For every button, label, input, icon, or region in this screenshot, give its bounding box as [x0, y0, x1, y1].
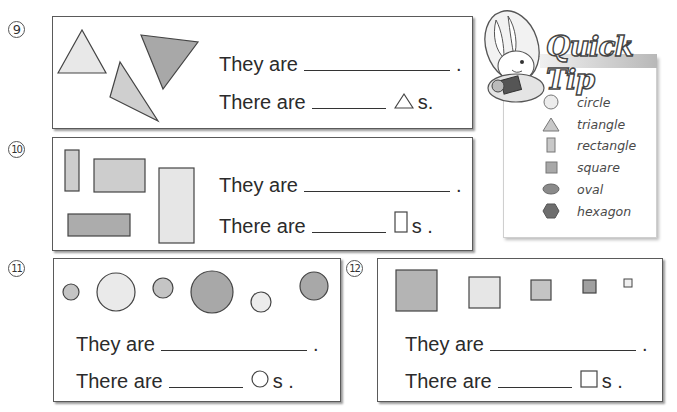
question-9-panel: They are . There are s.	[52, 16, 473, 129]
rectangle-shape	[94, 159, 145, 192]
they-are-line: They are .	[219, 174, 462, 197]
circle-icon	[251, 370, 269, 388]
tip-label: circle	[577, 95, 611, 110]
tip-item-hexagon: hexagon	[540, 201, 631, 221]
question-number-9: 9	[8, 21, 25, 38]
answer-blank-count[interactable]	[169, 387, 243, 388]
tip-item-square: square	[540, 157, 620, 177]
tip-item-circle: circle	[540, 92, 611, 112]
question-number-text: 10	[11, 144, 22, 155]
question-number-text: 12	[349, 263, 360, 274]
answer-blank-shape-name[interactable]	[304, 191, 450, 192]
triangle-icon	[542, 116, 560, 132]
circle-shape	[97, 273, 135, 311]
answer-blank-shape-name[interactable]	[161, 350, 307, 351]
there-are-line: There are s.	[219, 91, 433, 114]
period: .	[456, 53, 462, 76]
question-number-10: 10	[8, 141, 25, 158]
square-shape	[624, 279, 632, 287]
hexagon-icon	[542, 203, 560, 219]
triangle-shape	[141, 35, 198, 89]
question-number-text: 11	[11, 263, 22, 274]
square-shape	[469, 277, 500, 308]
rectangle-shape	[159, 168, 194, 243]
tip-item-triangle: triangle	[540, 114, 625, 134]
plural-suffix: s.	[418, 91, 434, 114]
oval-icon	[542, 183, 560, 195]
circle-shape	[251, 292, 271, 312]
they-are-line: They are .	[219, 53, 462, 76]
plural-suffix: s .	[412, 215, 433, 238]
triangle-shape	[110, 62, 158, 121]
rectangle-icon	[394, 211, 408, 233]
triangle-shape	[58, 30, 106, 73]
question-number-text: 9	[13, 22, 20, 37]
circle-shape	[191, 271, 233, 313]
circle-shape	[153, 278, 173, 298]
circle-icon	[543, 94, 559, 110]
they-are-label: They are	[219, 174, 298, 197]
plural-suffix: s .	[273, 370, 294, 393]
question-12-panel: They are . There are s .	[377, 258, 663, 402]
there-are-line: There are s .	[219, 211, 433, 238]
rectangle-icon	[546, 137, 556, 153]
period: .	[456, 174, 462, 197]
tip-label: rectangle	[577, 138, 636, 153]
there-are-line: There are s .	[76, 370, 294, 393]
there-are-label: There are	[219, 215, 306, 238]
they-are-label: They are	[76, 333, 155, 356]
tip-label: triangle	[577, 117, 625, 132]
period: .	[642, 333, 648, 356]
period: .	[313, 333, 319, 356]
square-shape	[396, 270, 437, 311]
answer-blank-shape-name[interactable]	[490, 350, 636, 351]
there-are-label: There are	[405, 370, 492, 393]
tip-label: oval	[577, 182, 603, 197]
rectangle-shape	[65, 150, 79, 191]
tip-label: hexagon	[577, 204, 631, 219]
rectangle-shape	[68, 214, 130, 236]
they-are-label: They are	[405, 333, 484, 356]
they-are-label: They are	[219, 53, 298, 76]
circle-shape	[300, 272, 328, 300]
question-10-panel: They are . There are s .	[52, 137, 473, 251]
answer-blank-shape-name[interactable]	[304, 70, 450, 71]
square-icon	[545, 161, 558, 174]
square-shape	[583, 280, 596, 293]
tip-item-rectangle: rectangle	[540, 135, 636, 155]
answer-blank-count[interactable]	[498, 387, 572, 388]
question-number-11: 11	[8, 260, 25, 277]
answer-blank-count[interactable]	[312, 108, 386, 109]
there-are-label: There are	[219, 91, 306, 114]
answer-blank-count[interactable]	[312, 232, 386, 233]
tip-label: square	[577, 160, 620, 175]
triangle-icon	[394, 92, 414, 109]
they-are-line: They are .	[405, 333, 648, 356]
square-icon	[580, 370, 598, 388]
square-shape	[531, 280, 551, 300]
circle-shape	[63, 284, 79, 300]
tip-item-oval: oval	[540, 179, 603, 199]
question-number-12: 12	[346, 260, 363, 277]
quick-tip-title: Quick Tip	[546, 30, 677, 96]
there-are-label: There are	[76, 370, 163, 393]
they-are-line: They are .	[76, 333, 319, 356]
plural-suffix: s .	[602, 370, 623, 393]
question-11-panel: They are . There are s .	[53, 258, 341, 402]
there-are-line: There are s .	[405, 370, 623, 393]
